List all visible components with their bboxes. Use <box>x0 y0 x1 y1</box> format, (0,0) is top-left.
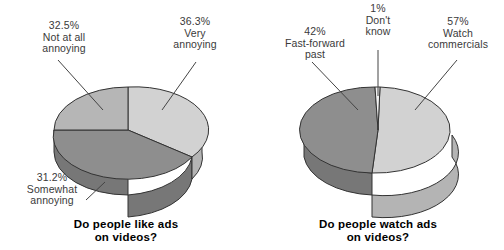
left-label-not-at-all-pct: 32.5% <box>12 20 116 32</box>
right-chart-caption: Do people watch ads on videos? <box>252 218 504 244</box>
left-caption-line2: on videos? <box>0 231 252 244</box>
left-label-somewhat-annoying: 31.2% Somewhat annoying <box>2 172 102 207</box>
right-label-watch-pct: 57% <box>414 16 502 28</box>
left-slice-not-at-all-annoying <box>54 87 128 130</box>
left-caption-line1: Do people like ads <box>0 218 252 231</box>
right-label-dont-know-line2: know <box>348 26 408 38</box>
right-label-fast-forward-line2: past <box>260 49 370 61</box>
left-label-very-annoying: 36.3% Very annoying <box>148 16 242 51</box>
right-label-dont-know: 1% Don't know <box>348 3 408 38</box>
right-caption-line2: on videos? <box>252 231 504 244</box>
right-label-watch-commercials: 57% Watch commercials <box>414 16 502 51</box>
right-leader-watch-commercials <box>415 60 457 110</box>
chart-do-people-like-ads: 32.5% Not at all annoying 36.3% Very ann… <box>0 0 252 250</box>
right-label-dont-know-pct: 1% <box>348 3 408 15</box>
left-label-not-at-all-annoying: 32.5% Not at all annoying <box>12 20 116 55</box>
right-slice-watch-commercials <box>372 87 450 173</box>
left-label-somewhat-pct: 31.2% <box>2 172 102 184</box>
left-label-very-pct: 36.3% <box>148 16 242 28</box>
left-label-not-at-all-line2: annoying <box>12 43 116 55</box>
right-label-watch-line2: commercials <box>414 39 502 51</box>
left-label-somewhat-line2: annoying <box>2 195 102 207</box>
left-label-very-line2: annoying <box>148 39 242 51</box>
pie-charts-figure: 32.5% Not at all annoying 36.3% Very ann… <box>0 0 504 250</box>
chart-do-people-watch-ads: 42% Fast-forward past 1% Don't know 57% … <box>252 0 504 250</box>
left-chart-caption: Do people like ads on videos? <box>0 218 252 244</box>
right-caption-line1: Do people watch ads <box>252 218 504 231</box>
